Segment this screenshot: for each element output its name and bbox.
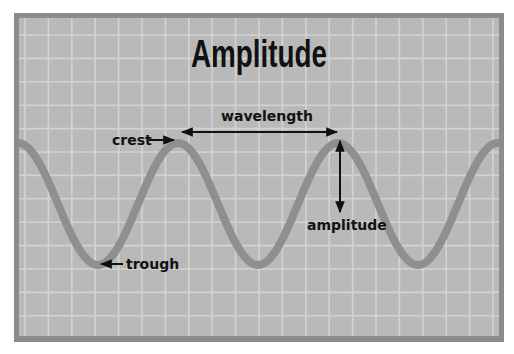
amplitude-diagram: Amplitude wavelength crest amplitude tro… [0,0,514,354]
wavelength-label: wavelength [221,108,313,124]
amplitude-label: amplitude [307,217,387,233]
crest-label: crest [112,132,152,148]
trough-label: trough [126,256,179,272]
diagram-title: Amplitude [191,33,327,75]
